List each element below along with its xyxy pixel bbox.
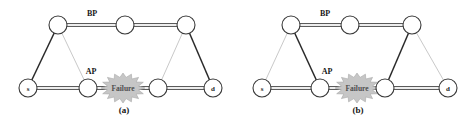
panel-caption-b: (b) — [353, 105, 364, 115]
path-label-ap: AP — [322, 67, 333, 76]
path-label-bp: BP — [87, 9, 97, 18]
node-circle-upper-mid[interactable] — [341, 16, 359, 34]
node-source[interactable]: s — [19, 79, 37, 97]
node-circle-lower-mid-left[interactable] — [79, 79, 97, 97]
node-circle-upper-left[interactable] — [49, 16, 67, 34]
edge-source-to-upper-left — [262, 25, 291, 88]
node-circle-lower-mid-right[interactable] — [149, 79, 167, 97]
node-circle-upper-mid[interactable] — [116, 16, 134, 34]
edge-upper-left-to-lower-mid-left — [58, 25, 88, 88]
edge-upper-right-to-destination — [186, 25, 213, 88]
figure-canvas: FailuresdBPAP(a)FailuresdBPAP(b) — [19, 9, 457, 115]
node-source[interactable]: s — [253, 79, 271, 97]
node-label-destination: d — [211, 85, 215, 93]
panel-caption-a: (a) — [119, 105, 130, 115]
panel-b: FailuresdBPAP(b) — [253, 9, 457, 115]
failure-indicator-a: Failure — [101, 73, 145, 103]
path-label-bp: BP — [320, 9, 330, 18]
node-upper-right[interactable] — [177, 16, 195, 34]
path-label-ap: AP — [86, 67, 97, 76]
node-upper-left[interactable] — [282, 16, 300, 34]
node-upper-right[interactable] — [403, 16, 421, 34]
node-circle-lower-mid-right[interactable] — [376, 79, 394, 97]
node-destination[interactable]: d — [439, 79, 457, 97]
node-lower-mid-right[interactable] — [149, 79, 167, 97]
edge-upper-right-to-lower-mid-right — [385, 25, 412, 88]
edge-source-to-upper-left — [28, 25, 58, 88]
node-upper-left[interactable] — [49, 16, 67, 34]
node-label-source: s — [27, 85, 30, 93]
failure-label: Failure — [111, 84, 135, 93]
panel-a: FailuresdBPAP(a) — [19, 9, 222, 115]
edge-upper-right-to-destination — [412, 25, 448, 88]
node-lower-mid-left[interactable] — [79, 79, 97, 97]
node-circle-upper-right[interactable] — [177, 16, 195, 34]
failure-label: Failure — [345, 84, 369, 93]
node-lower-mid-left[interactable] — [311, 79, 329, 97]
node-circle-upper-right[interactable] — [403, 16, 421, 34]
node-upper-mid[interactable] — [116, 16, 134, 34]
edge-upper-left-to-upper-mid — [58, 24, 125, 27]
network-topology-figure: FailuresdBPAP(a)FailuresdBPAP(b) — [0, 0, 476, 121]
edge-upper-right-to-lower-mid-right — [158, 25, 186, 88]
node-circle-lower-mid-left[interactable] — [311, 79, 329, 97]
node-destination[interactable]: d — [204, 79, 222, 97]
node-lower-mid-right[interactable] — [376, 79, 394, 97]
node-circle-upper-left[interactable] — [282, 16, 300, 34]
node-label-destination: d — [446, 85, 450, 93]
node-label-source: s — [261, 85, 264, 93]
edge-upper-left-to-lower-mid-left — [291, 25, 320, 88]
failure-indicator-b: Failure — [335, 73, 379, 103]
node-upper-mid[interactable] — [341, 16, 359, 34]
